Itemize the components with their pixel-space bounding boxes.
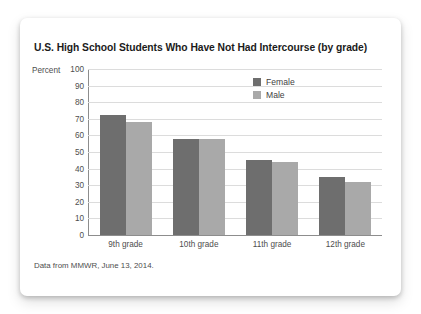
plot-area: 1009080706050403020100 9th grade10th gra… xyxy=(88,69,382,235)
legend-swatch-icon xyxy=(253,78,261,86)
x-axis-tick: 10th grade xyxy=(179,240,218,249)
y-axis-tick: 60 xyxy=(75,131,84,140)
legend-label: Female xyxy=(266,77,295,87)
y-axis-tick: 40 xyxy=(75,164,84,173)
screenshot-root: U.S. High School Students Who Have Not H… xyxy=(0,0,421,314)
bar-groups: 9th grade10th grade11th grade12th grade xyxy=(89,69,382,235)
chart-card: U.S. High School Students Who Have Not H… xyxy=(20,18,401,296)
y-axis-tick: 10 xyxy=(75,214,84,223)
bar-male-10th-grade[interactable] xyxy=(199,139,225,235)
y-axis-tick: 50 xyxy=(75,148,84,157)
legend-label: Male xyxy=(266,90,285,100)
bar-male-9th-grade[interactable] xyxy=(126,122,152,235)
x-axis-tick: 12th grade xyxy=(326,240,365,249)
y-axis-tick: 30 xyxy=(75,181,84,190)
y-axis-tick: 100 xyxy=(70,65,84,74)
x-axis-tick: 9th grade xyxy=(108,240,143,249)
bar-group: 9th grade xyxy=(89,69,162,235)
bar-group: 12th grade xyxy=(309,69,382,235)
y-axis-label: Percent xyxy=(32,66,60,75)
bar-female-12th-grade[interactable] xyxy=(319,177,345,235)
legend-swatch-icon xyxy=(253,91,261,99)
y-axis-tick: 20 xyxy=(75,197,84,206)
y-axis-tick: 0 xyxy=(79,231,84,240)
x-axis-tick: 11th grade xyxy=(253,240,292,249)
bar-female-9th-grade[interactable] xyxy=(100,115,126,235)
y-axis-tick: 90 xyxy=(75,81,84,90)
bar-male-12th-grade[interactable] xyxy=(345,182,371,235)
legend-item-female[interactable]: Female xyxy=(253,75,295,88)
y-axis-tick: 70 xyxy=(75,114,84,123)
gridline xyxy=(88,235,382,236)
chart-title: U.S. High School Students Who Have Not H… xyxy=(34,42,367,53)
bar-female-11th-grade[interactable] xyxy=(246,160,272,235)
bar-male-11th-grade[interactable] xyxy=(272,162,298,235)
bar-female-10th-grade[interactable] xyxy=(173,139,199,235)
chart-legend: FemaleMale xyxy=(253,75,295,101)
bar-group: 10th grade xyxy=(162,69,235,235)
legend-item-male[interactable]: Male xyxy=(253,88,295,101)
source-note: Data from MMWR, June 13, 2014. xyxy=(34,261,154,270)
y-axis-tick: 80 xyxy=(75,98,84,107)
